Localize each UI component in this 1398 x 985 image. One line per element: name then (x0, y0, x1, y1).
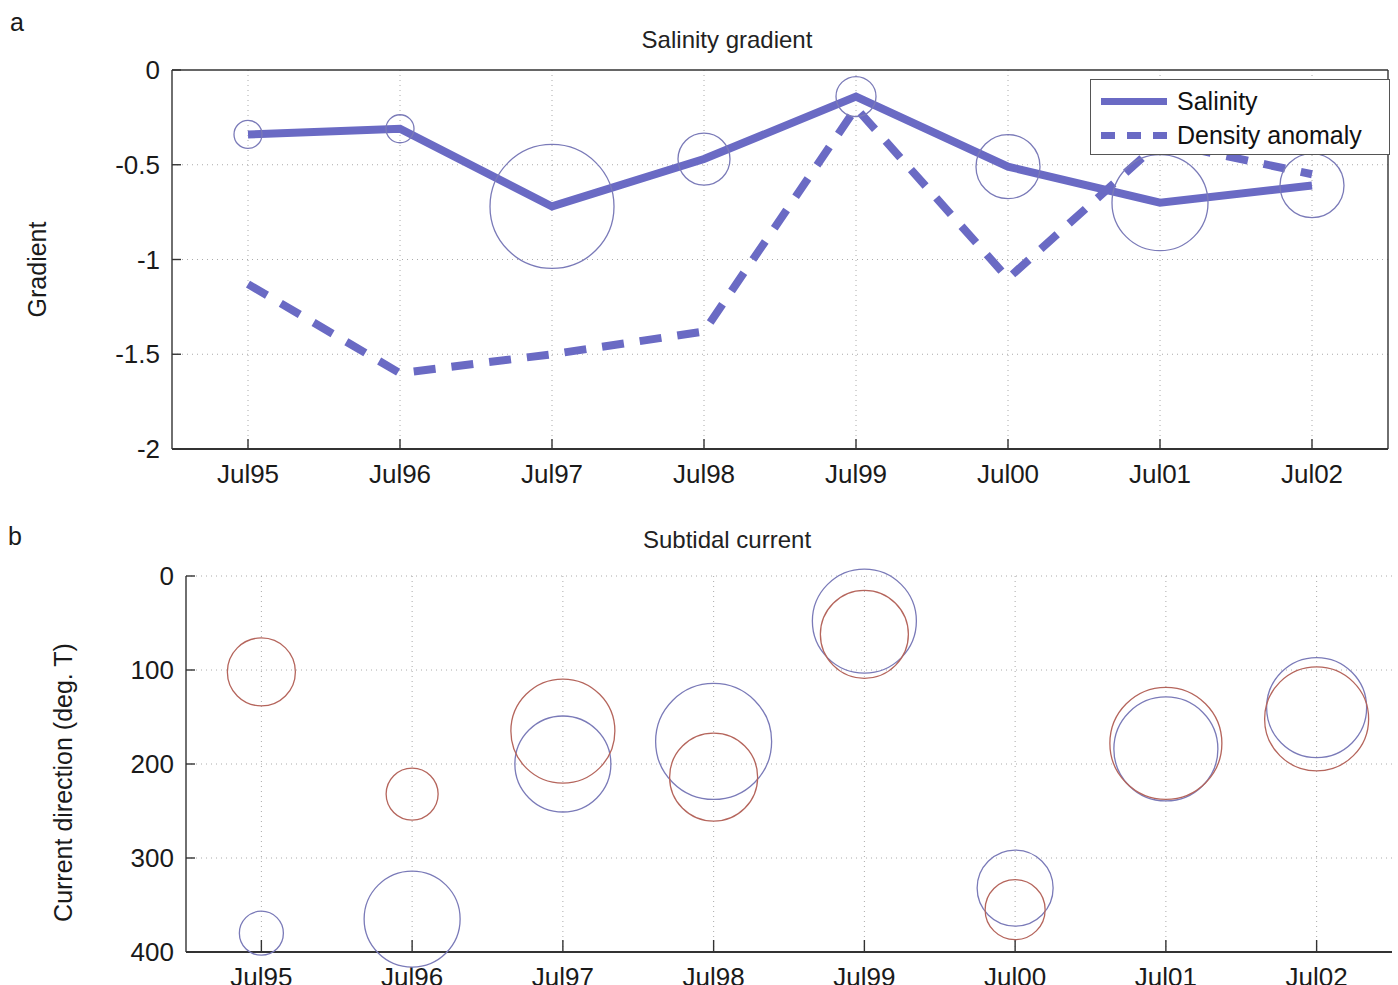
x-axis-tick-label: Jul97 (521, 459, 583, 489)
x-axis-tick-label: Jul99 (825, 459, 887, 489)
y-axis-tick-label: 100 (131, 655, 174, 685)
x-axis-tick-label: Jul99 (833, 962, 895, 985)
y-axis-tick-label: 300 (131, 843, 174, 873)
y-axis-tick-label: 200 (131, 749, 174, 779)
y-axis-tick-label: 0 (160, 561, 174, 591)
panel-b-plot-area: 4003002001000Jul95Jul96Jul97Jul98Jul99Ju… (0, 500, 1398, 985)
x-axis-tick-label: Jul02 (1286, 962, 1348, 985)
x-axis-tick-label: Jul00 (984, 962, 1046, 985)
y-axis-tick-label: 400 (131, 937, 174, 967)
panel-a-plot-area: 0-0.5-1-1.5-2Jul95Jul96Jul97Jul98Jul99Ju… (0, 0, 1398, 500)
panel-a-salinity-gradient: a Salinity gradient Gradient 0-0.5-1-1.5… (0, 0, 1398, 500)
x-axis-tick-label: Jul01 (1129, 459, 1191, 489)
legend-item-salinity: Salinity (1091, 84, 1389, 118)
bubble-marker-dry-tortugas (820, 590, 908, 678)
x-axis-tick-label: Jul95 (230, 962, 292, 985)
x-axis-tick-label: Jul98 (673, 459, 735, 489)
x-axis-tick-label: Jul96 (369, 459, 431, 489)
bubble-marker-dry-tortugas (386, 768, 438, 820)
bubble-marker-dry-tortugas (1110, 687, 1222, 799)
x-axis-tick-label: Jul96 (381, 962, 443, 985)
legend-label-salinity: Salinity (1177, 87, 1258, 116)
panel-b-subtidal-current: b Subtidal current Current direction (de… (0, 500, 1398, 985)
legend-item-density-anomaly: Density anomaly (1091, 118, 1389, 152)
bubble-marker-dry-tortugas (1265, 667, 1369, 771)
solid-line-swatch-icon (1091, 98, 1177, 105)
bubble-marker-dry-tortugas (985, 880, 1045, 940)
x-axis-tick-label: Jul02 (1281, 459, 1343, 489)
panel-a-legend: Salinity Density anomaly (1090, 79, 1390, 155)
x-axis-tick-label: Jul01 (1135, 962, 1197, 985)
x-axis-tick-label: Jul95 (217, 459, 279, 489)
y-axis-tick-label: -2 (137, 434, 160, 464)
y-axis-tick-label: -1 (137, 245, 160, 275)
legend-label-density-anomaly: Density anomaly (1177, 121, 1362, 150)
x-axis-tick-label: Jul98 (683, 962, 745, 985)
y-axis-tick-label: 0 (146, 55, 160, 85)
x-axis-tick-label: Jul97 (532, 962, 594, 985)
y-axis-tick-label: -1.5 (115, 339, 160, 369)
x-axis-tick-label: Jul00 (977, 459, 1039, 489)
y-axis-tick-label: -0.5 (115, 150, 160, 180)
dashed-line-swatch-icon (1091, 132, 1177, 139)
bubble-marker-marquesas (1267, 658, 1367, 758)
